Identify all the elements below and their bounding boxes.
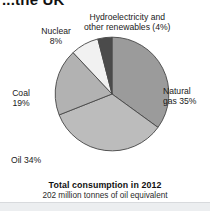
slice-label-coal-line1: Coal [3, 88, 39, 98]
pie-chart-figure: ...the UK Hydroelectricity and other ren… [0, 0, 210, 211]
slice-label-oil: Oil 34% [11, 155, 41, 165]
slice-label-coal: Coal 19% [3, 88, 39, 109]
slice-label-gas: Natural gas 35% [163, 86, 196, 107]
slice-label-coal-line2: 19% [3, 98, 39, 108]
slice-label-hydro-line1: Hydroelectricity and [84, 12, 170, 22]
slice-label-nuclear-line2: 8% [33, 36, 79, 46]
pie-svg [54, 36, 170, 152]
bottom-band [0, 202, 210, 211]
caption-main: Total consumption in 2012 [0, 180, 210, 190]
slice-label-gas-line2: gas 35% [163, 96, 196, 106]
slice-label-gas-line1: Natural [163, 86, 196, 96]
slice-label-nuclear-line1: Nuclear [33, 26, 79, 36]
slice-label-nuclear: Nuclear 8% [33, 26, 79, 47]
pie-slices [55, 37, 169, 151]
chart-caption: Total consumption in 2012 202 million to… [0, 180, 210, 200]
slice-label-hydro-line2: other renewables (4%) [84, 22, 170, 32]
pie-chart-graphic [54, 36, 170, 152]
slice-label-hydro: Hydroelectricity and other renewables (4… [84, 12, 170, 33]
page-title: ...the UK [2, 0, 65, 8]
caption-sub: 202 million tonnes of oil equivalent [0, 191, 210, 200]
